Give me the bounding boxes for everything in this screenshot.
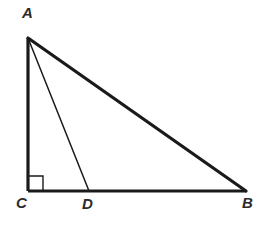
geometry-diagram (0, 0, 260, 226)
geometry-figure: A B C D (0, 0, 260, 226)
vertex-label-b: B (242, 195, 253, 210)
right-angle-marker-icon (28, 176, 43, 191)
segment-AB (28, 38, 246, 191)
vertex-label-c: C (16, 195, 27, 210)
vertex-label-d: D (82, 196, 93, 211)
vertex-label-a: A (22, 5, 33, 20)
